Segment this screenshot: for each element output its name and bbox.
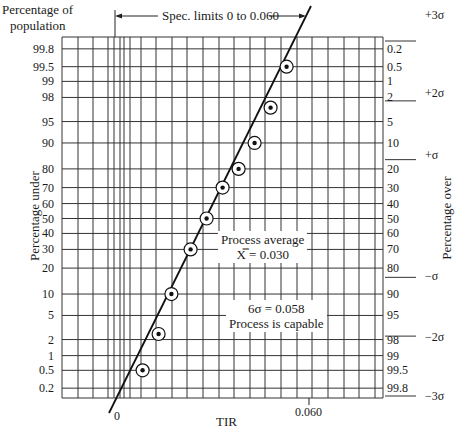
left-tick-label: 98 <box>0 91 54 103</box>
arrow-left-icon <box>115 14 122 19</box>
sigma-minus3: −3σ <box>425 390 444 402</box>
right-tick-label: 40 <box>387 198 399 210</box>
process-average-annotation: Process average X̿ = 0.030 <box>218 231 307 263</box>
data-point-dot <box>188 247 192 251</box>
left-tick-label: 90 <box>0 137 54 149</box>
avg-value: X̿ = 0.030 <box>221 247 304 262</box>
data-point-dot <box>284 64 288 68</box>
right-tick-label: 60 <box>387 227 399 239</box>
right-tick-label: 5 <box>387 116 393 128</box>
data-point-dot <box>140 368 144 372</box>
right-tick-label: 0.2 <box>387 43 402 55</box>
left-tick-label: 99.8 <box>0 43 54 55</box>
right-tick-label: 30 <box>387 182 399 194</box>
six-sigma-value: 6σ = 0.058 <box>229 301 324 316</box>
left-tick-label: 99.5 <box>0 61 54 73</box>
data-point-dot <box>204 216 208 220</box>
right-tick-label: 80 <box>387 262 399 274</box>
right-tick-label: 1 <box>387 75 393 87</box>
right-tick-label: 0.5 <box>387 61 402 73</box>
left-tick-label: 95 <box>0 116 54 128</box>
right-axis-label: Percentage over <box>439 163 455 273</box>
data-point-dot <box>252 141 256 145</box>
data-point-dot <box>268 105 272 109</box>
right-tick-label: 2 <box>387 91 393 103</box>
left-axis-label: Percentage under <box>27 161 43 271</box>
left-tick-label: 0.2 <box>0 382 54 394</box>
x-tick-060-label: 0.060 <box>295 406 322 418</box>
top-left-label-2: population <box>10 20 66 32</box>
right-tick-label: 50 <box>387 213 399 225</box>
grid <box>62 37 383 398</box>
sigma-plus1: +σ <box>425 149 438 161</box>
right-tick-label: 98 <box>387 334 399 346</box>
left-tick-label: 0.5 <box>0 364 54 376</box>
right-tick-label: 99.5 <box>387 364 408 376</box>
avg-title: Process average <box>221 232 304 247</box>
x-tick-0: 0 <box>114 410 120 422</box>
right-tick-label: 99 <box>387 350 399 362</box>
left-tick-label: 99 <box>0 75 54 87</box>
sigma-minus2: −2σ <box>425 331 444 343</box>
sigma-plus3: +3σ <box>425 9 444 21</box>
data-point-dot <box>220 185 224 189</box>
right-tick-label: 90 <box>387 288 399 300</box>
x-axis-label: TIR <box>216 416 237 428</box>
sigma-minus1: −σ <box>425 270 438 282</box>
left-tick-label: 1 <box>0 350 54 362</box>
data-point-dot <box>156 332 160 336</box>
sigma-plus2: +2σ <box>425 87 444 99</box>
right-tick-label: 99.8 <box>387 382 408 394</box>
capable-text: Process is capable <box>229 316 324 331</box>
data-point-dot <box>169 292 173 296</box>
right-tick-label: 20 <box>387 163 399 175</box>
data-point-dot <box>236 167 240 171</box>
spec-limits-label: Spec. limits 0 to 0.060 <box>162 10 279 22</box>
left-tick-label: 5 <box>0 309 54 321</box>
right-tick-label: 70 <box>387 243 399 255</box>
left-tick-label: 2 <box>0 334 54 346</box>
top-left-label-1: Percentage of <box>2 4 73 16</box>
right-tick-label: 10 <box>387 137 399 149</box>
right-tick-label: 95 <box>387 309 399 321</box>
left-tick-label: 10 <box>0 288 54 300</box>
capability-annotation: 6σ = 0.058 Process is capable <box>226 300 327 332</box>
